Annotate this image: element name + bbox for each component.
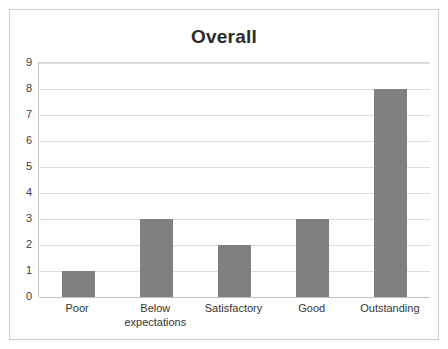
gridline	[39, 297, 430, 298]
y-tick-label: 6	[6, 134, 32, 146]
x-tick-label: Poor	[38, 301, 116, 315]
bar[interactable]	[374, 89, 407, 297]
y-tick-label: 4	[6, 186, 32, 198]
x-tick-label-line: expectations	[116, 315, 194, 329]
y-tick-label: 1	[6, 264, 32, 276]
gridline	[39, 167, 430, 168]
x-tick-label-line: Satisfactory	[194, 301, 272, 315]
gridline	[39, 115, 430, 116]
x-tick-label-line: Below	[116, 301, 194, 315]
y-tick-label: 2	[6, 238, 32, 250]
y-tick-label: 9	[6, 56, 32, 68]
bar[interactable]	[62, 271, 95, 297]
gridline	[39, 89, 430, 90]
bar[interactable]	[218, 245, 251, 297]
plot-area	[38, 62, 430, 297]
y-tick-label: 8	[6, 82, 32, 94]
x-tick-label-line: Good	[273, 301, 351, 315]
y-tick-label: 5	[6, 160, 32, 172]
bar-chart-figure: Overall 0123456789 PoorBelowexpectations…	[0, 0, 448, 349]
x-tick-label-line: Outstanding	[351, 301, 429, 315]
x-tick-label: Satisfactory	[194, 301, 272, 315]
x-tick-label-line: Poor	[38, 301, 116, 315]
y-axis-tick-labels: 0123456789	[0, 62, 32, 297]
x-tick-label: Outstanding	[351, 301, 429, 315]
x-tick-label: Belowexpectations	[116, 301, 194, 329]
x-axis-tick-labels: PoorBelowexpectationsSatisfactoryGoodOut…	[38, 301, 430, 345]
y-tick-label: 0	[6, 290, 32, 302]
x-tick-label: Good	[273, 301, 351, 315]
y-tick-label: 3	[6, 212, 32, 224]
y-tick-label: 7	[6, 108, 32, 120]
gridline	[39, 219, 430, 220]
bar[interactable]	[140, 219, 173, 297]
gridline	[39, 63, 430, 64]
gridline	[39, 193, 430, 194]
bar[interactable]	[296, 219, 329, 297]
chart-title: Overall	[0, 26, 448, 48]
gridline	[39, 141, 430, 142]
